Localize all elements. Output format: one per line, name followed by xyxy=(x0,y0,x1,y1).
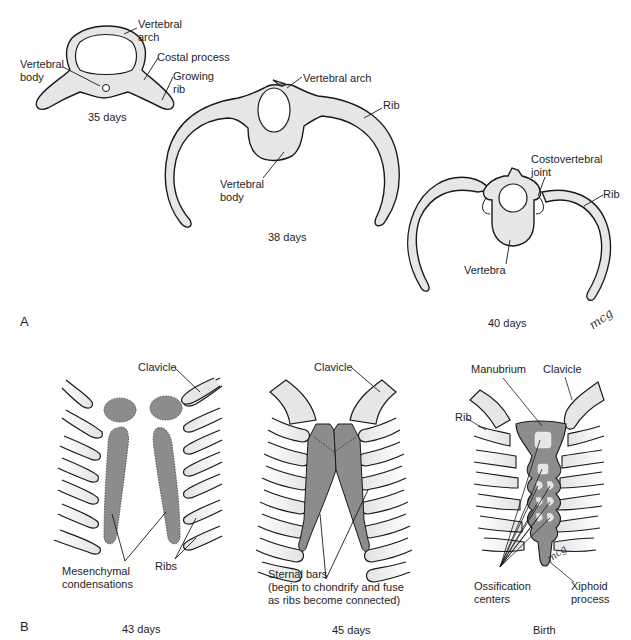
diagram-canvas xyxy=(0,0,631,640)
label-45-clavicle: Clavicle xyxy=(314,361,353,374)
caption-43-days: 43 days xyxy=(122,623,161,636)
label-40-costovertebral-joint: Costovertebral joint xyxy=(531,153,603,179)
label-38-vertebral-arch: Vertebral arch xyxy=(303,72,371,85)
label-35-vertebral-body: Vertebral body xyxy=(20,58,64,84)
label-35-vertebral-arch: Vertebral arch xyxy=(138,18,182,44)
label-43-clavicle: Clavicle xyxy=(138,361,177,374)
panel-label-a: A xyxy=(20,314,29,329)
label-35-growing-rib: Growing rib xyxy=(173,70,214,96)
sternum-45-days xyxy=(256,368,412,582)
label-38-vertebral-body: Vertebral body xyxy=(220,178,264,204)
sternum-birth xyxy=(466,377,604,582)
sternum-43-days xyxy=(54,368,222,561)
label-birth-clavicle: Clavicle xyxy=(543,363,582,376)
caption-birth: Birth xyxy=(533,624,556,637)
caption-35-days: 35 days xyxy=(88,111,127,124)
vertebra-38-days xyxy=(165,77,399,227)
caption-38-days: 38 days xyxy=(268,231,307,244)
caption-40-days: 40 days xyxy=(488,317,527,330)
label-birth-manubrium: Manubrium xyxy=(471,363,526,376)
label-birth-ossification-centers: Ossification centers xyxy=(474,580,531,606)
label-43-ribs: Ribs xyxy=(155,560,177,573)
panel-label-b: B xyxy=(20,619,29,634)
label-birth-xiphoid-process: Xiphoid process xyxy=(571,580,610,606)
label-35-costal-process: Costal process xyxy=(157,51,230,64)
vertebra-40-days xyxy=(408,168,611,300)
label-45-sternal-bars: Sternal bars (begin to chondrify and fus… xyxy=(268,568,404,607)
label-38-rib: Rib xyxy=(383,99,400,112)
label-43-mesenchymal-condensations: Mesenchymal condensations xyxy=(62,565,133,591)
label-40-rib: Rib xyxy=(603,188,620,201)
caption-45-days: 45 days xyxy=(332,624,371,637)
label-40-vertebra: Vertebra xyxy=(464,264,506,277)
label-birth-rib: Rib xyxy=(455,411,472,424)
